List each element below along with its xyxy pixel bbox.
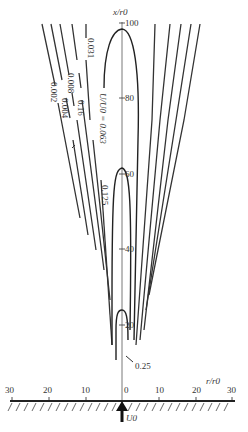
- r-tick-right-10: 10: [155, 386, 164, 395]
- r-tick-right-30: 30: [227, 386, 236, 395]
- r-tick-left-10: 10: [81, 386, 90, 395]
- contour-label-025: 0.25: [135, 362, 151, 371]
- x-tick-20: 20: [125, 321, 134, 330]
- contour-label-0125: 0.125: [100, 185, 109, 205]
- contour-label-0004: 0.004: [60, 98, 69, 118]
- x-axis-label: x/r0: [113, 8, 128, 17]
- jet-contour-diagram: x/r0 100 80 60 40 20 0.002 0.004 0.008 0…: [0, 0, 248, 432]
- contour-label-0031: 0.031: [86, 38, 95, 58]
- x-tick-100: 100: [125, 19, 139, 28]
- arrow-025: [126, 356, 133, 362]
- r-tick-left-20: 20: [43, 386, 52, 395]
- r-tick-left-30: 30: [5, 386, 14, 395]
- contour-label-0008: 0.008: [66, 73, 75, 93]
- inflow-arrow-shaft: [121, 410, 124, 422]
- x-tick-60: 60: [125, 170, 134, 179]
- inflow-arrow-head: [116, 401, 128, 411]
- right-contours: [136, 24, 200, 345]
- r-tick-right-20: 20: [192, 386, 201, 395]
- x-tick-40: 40: [125, 245, 134, 254]
- r-axis-label: r/r0: [206, 377, 220, 386]
- x-tick-80: 80: [125, 94, 134, 103]
- contour-plot: [0, 0, 248, 432]
- contour-label-0063: U/U0 = 0.063: [98, 93, 107, 144]
- inflow-label: U0: [126, 414, 137, 423]
- r-tick-0: 0: [124, 386, 129, 395]
- contour-label-016: 0.16: [76, 100, 85, 116]
- contour-label-0002: 0.002: [49, 82, 58, 102]
